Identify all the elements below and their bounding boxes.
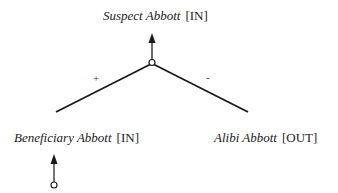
beneficiary-node-name: Beneficiary Abbott <box>14 130 112 145</box>
alibi-node-status: [OUT] <box>282 130 317 145</box>
beneficiary-arrow-icon <box>51 154 58 188</box>
alibi-node-label: Alibi Abbott[OUT] <box>214 131 317 144</box>
edge-plus-line <box>56 65 150 113</box>
root-arrow-icon <box>149 33 156 60</box>
junction-node-icon <box>149 60 155 66</box>
edge-minus-line <box>154 65 248 113</box>
beneficiary-node-status: [IN] <box>117 130 139 145</box>
argument-diagram: Suspect Abbott[IN] + - Beneficiary Abbot… <box>0 0 338 193</box>
alibi-node-name: Alibi Abbott <box>214 130 277 145</box>
root-node-label: Suspect Abbott[IN] <box>103 9 208 22</box>
diagram-edges <box>0 0 338 193</box>
beneficiary-node-label: Beneficiary Abbott[IN] <box>14 131 139 144</box>
root-node-status: [IN] <box>185 8 207 23</box>
edge-sign-plus: + <box>93 73 99 84</box>
root-node-name: Suspect Abbott <box>103 8 180 23</box>
edge-sign-minus: - <box>206 72 210 83</box>
